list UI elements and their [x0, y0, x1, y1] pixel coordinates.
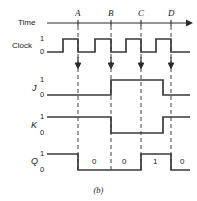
timing-diagram-figure: Time Clock J K Q 1 0 1 0 1 0 1 0 A B C D… [0, 0, 197, 201]
q-value-annotation-2: 0 [122, 158, 126, 166]
time-axis-label: Time [18, 19, 35, 27]
k-signal-label: K [31, 121, 37, 129]
j-waveform [47, 80, 190, 95]
k-waveform [47, 117, 190, 133]
clock-level-high: 1 [40, 35, 44, 43]
j-level-high: 1 [40, 76, 44, 84]
q-level-low: 0 [40, 166, 44, 174]
j-level-low: 0 [40, 91, 44, 99]
clock-signal-label: Clock [12, 42, 32, 50]
time-marker-a: A [75, 9, 81, 18]
trigger-arrow-c [138, 57, 144, 69]
figure-caption: (b) [0, 186, 197, 195]
j-signal-label: J [32, 84, 37, 92]
time-marker-d: D [168, 9, 175, 18]
clock-level-low: 0 [40, 48, 44, 56]
time-marker-b: B [108, 9, 114, 18]
q-level-high: 1 [40, 150, 44, 158]
q-signal-label: Q [31, 157, 38, 165]
q-value-annotation-1: 0 [92, 158, 96, 166]
k-level-low: 0 [40, 129, 44, 137]
trigger-arrow-a [75, 57, 81, 69]
reference-lines [78, 26, 171, 170]
timing-diagram-canvas [0, 0, 197, 201]
trigger-arrow-d [168, 57, 174, 69]
trigger-arrows [75, 57, 174, 69]
q-value-annotation-4: 0 [180, 158, 184, 166]
k-level-high: 1 [40, 113, 44, 121]
q-waveform [47, 154, 190, 170]
trigger-arrow-b [108, 57, 114, 69]
clock-waveform [47, 39, 190, 52]
time-axis [47, 20, 193, 27]
q-value-annotation-3: 1 [153, 158, 157, 166]
time-marker-c: C [138, 9, 144, 18]
